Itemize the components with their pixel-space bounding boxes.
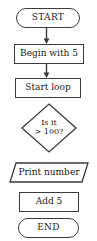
node-begin-with-5[interactable]: Begin with 5 — [14, 44, 84, 64]
node-decision-label-line2: > 100? — [21, 128, 77, 137]
connector-start-to-begin — [42, 28, 51, 44]
node-start[interactable]: START — [16, 8, 80, 28]
node-decision-text: Is it > 100? — [21, 119, 77, 137]
node-add-5-label: Add 5 — [36, 197, 63, 206]
node-add-5[interactable]: Add 5 — [19, 192, 79, 212]
node-print-number[interactable]: Print number — [9, 162, 89, 183]
node-start-loop-label: Start loop — [25, 83, 70, 92]
node-start-loop[interactable]: Start loop — [15, 78, 81, 98]
node-end-label: END — [37, 223, 60, 232]
node-begin-with-5-label: Begin with 5 — [20, 49, 78, 58]
flowchart-diagram: START Begin with 5 Start loop Is it > 10… — [0, 0, 97, 241]
node-start-label: START — [32, 13, 64, 22]
connector-begin-to-loop — [42, 64, 51, 78]
node-end[interactable]: END — [18, 218, 79, 238]
node-print-number-label: Print number — [18, 168, 79, 177]
node-decision-is-it-greater-than-100[interactable]: Is it > 100? — [21, 103, 77, 153]
